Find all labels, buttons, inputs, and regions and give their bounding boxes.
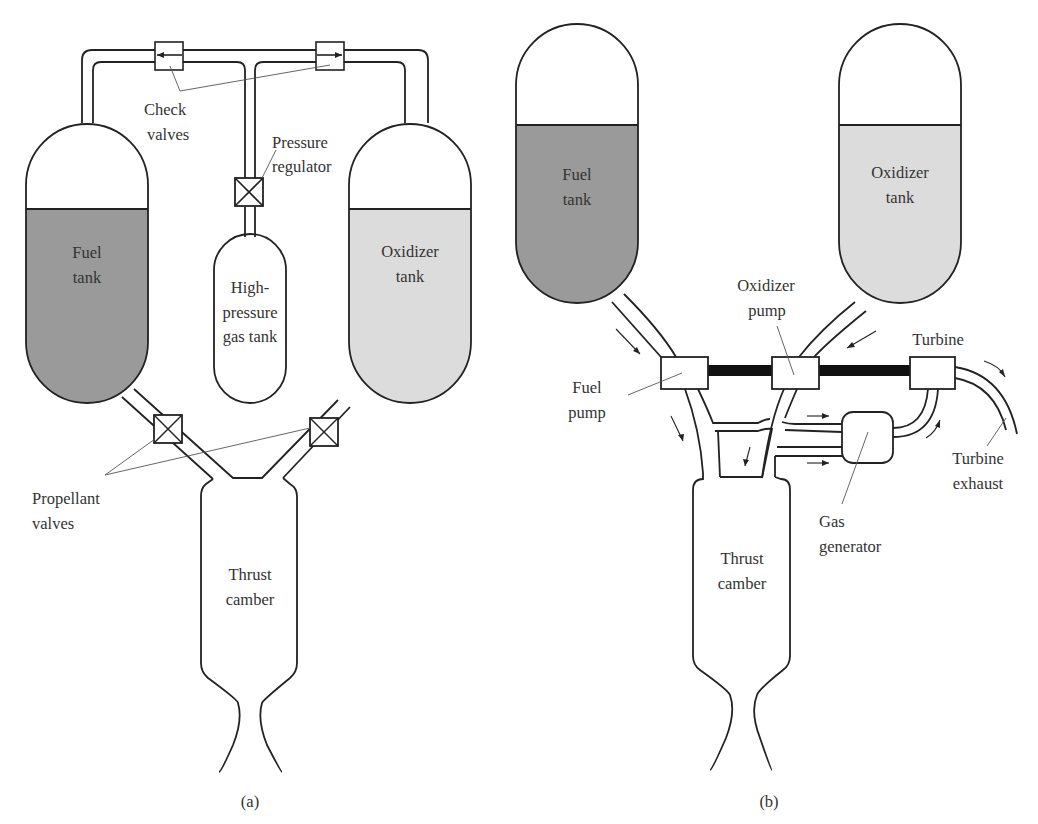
label-oxidizer-pump-2: pump xyxy=(748,301,786,320)
flow-arrows xyxy=(616,329,1005,466)
caption-a: (a) xyxy=(241,792,259,811)
shaft xyxy=(708,365,772,376)
turbine xyxy=(910,357,955,389)
tank-feed-lines-b xyxy=(612,294,866,357)
label-check-valves-1: Check xyxy=(144,100,187,119)
arrow-icon xyxy=(822,413,829,419)
arrow-icon xyxy=(822,460,829,466)
label-thrust-chamber-b-1: Thrust xyxy=(720,549,763,568)
thrust-chamber-a: Thrust camber xyxy=(201,478,297,772)
label-turbine-exhaust-1: Turbine xyxy=(952,449,1004,468)
arrow-icon xyxy=(847,342,855,348)
label-fuel-pump-2: pump xyxy=(568,403,606,422)
label-propellant-valves-1: Propellant xyxy=(32,489,100,508)
label-thrust-chamber-a-1: Thrust xyxy=(228,565,271,584)
label-gas-tank-1: High- xyxy=(231,278,270,297)
fuel-pump xyxy=(661,357,708,389)
label-propellant-valves-2: valves xyxy=(32,514,74,533)
fuel-tank-a: Fuel tank xyxy=(20,124,155,409)
caption-b: (b) xyxy=(759,792,778,811)
label-pressure-regulator-2: regulator xyxy=(272,157,332,176)
label-oxidizer-tank-b-2: tank xyxy=(886,188,915,207)
high-pressure-gas-tank: High- pressure gas tank xyxy=(214,234,286,403)
gas-generator xyxy=(842,412,893,463)
label-turbine: Turbine xyxy=(912,330,964,349)
arrow-icon xyxy=(678,434,684,441)
label-oxidizer-tank-b-1: Oxidizer xyxy=(871,163,929,182)
label-check-valves-2: valves xyxy=(147,125,189,144)
label-oxidizer-tank-a-2: tank xyxy=(396,267,425,286)
fuel-tank-b: Fuel tank xyxy=(510,24,645,325)
label-gas-tank-2: pressure xyxy=(223,303,278,322)
check-valve-right xyxy=(316,42,344,70)
label-oxidizer-tank-a-1: Oxidizer xyxy=(381,242,439,261)
oxidizer-tank-b: Oxidizer tank xyxy=(830,24,970,325)
oxidizer-tank-a: Oxidizer tank xyxy=(340,124,480,409)
oxidizer-pump xyxy=(772,357,819,389)
label-pressure-regulator-1: Pressure xyxy=(272,133,328,152)
label-gas-generator-2: generator xyxy=(819,537,882,556)
label-oxidizer-pump-1: Oxidizer xyxy=(737,276,795,295)
label-fuel-tank-b-2: tank xyxy=(563,190,592,209)
label-fuel-pump-1: Fuel xyxy=(572,378,602,397)
panel-b: Fuel tank Oxidizer tank xyxy=(510,24,1017,811)
label-fuel-tank-b-1: Fuel xyxy=(562,165,592,184)
label-gas-tank-3: gas tank xyxy=(223,327,278,346)
label-fuel-tank-a-1: Fuel xyxy=(72,243,102,262)
pressure-regulator xyxy=(235,178,263,206)
check-valve-left xyxy=(155,42,183,70)
propulsion-diagram: Check valves Pressure regulator xyxy=(0,0,1038,824)
label-turbine-exhaust-2: exhaust xyxy=(953,474,1004,493)
label-gas-generator-1: Gas xyxy=(819,512,845,531)
propellant-valve-left xyxy=(154,415,182,443)
label-thrust-chamber-b-2: camber xyxy=(718,574,767,593)
shaft xyxy=(819,365,910,376)
propellant-valve-right xyxy=(310,418,338,446)
thrust-chamber-b: Thrust camber xyxy=(693,473,790,770)
label-fuel-tank-a-2: tank xyxy=(73,268,102,287)
arrow-icon xyxy=(743,459,749,466)
pump-outlet-lines xyxy=(685,389,842,478)
arrow-icon xyxy=(935,420,940,428)
label-thrust-chamber-a-2: camber xyxy=(226,590,275,609)
panel-a: Check valves Pressure regulator xyxy=(20,42,480,811)
